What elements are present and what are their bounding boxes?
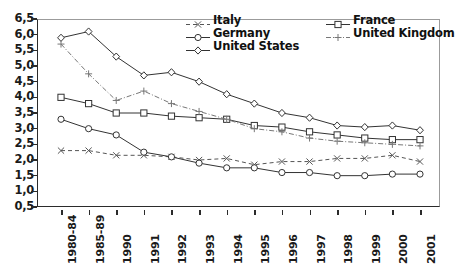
data-point-marker <box>334 138 341 145</box>
data-point-marker <box>224 165 230 171</box>
legend-column: FranceUnited Kingdom <box>325 14 455 40</box>
x-axis-tick-mark <box>89 210 91 215</box>
series-united-kingdom <box>58 41 424 150</box>
data-point-marker <box>196 160 202 166</box>
data-point-marker <box>306 135 313 142</box>
x-axis-tick-mark <box>254 210 256 215</box>
data-point-marker <box>334 132 340 138</box>
data-point-marker <box>140 72 147 79</box>
legend-swatch-icon <box>185 15 211 26</box>
y-axis-tick-label: 2,0 <box>2 154 34 166</box>
legend-item-united-kingdom: United Kingdom <box>325 27 455 40</box>
data-point-marker <box>168 100 175 107</box>
legend-item-italy: Italy <box>185 14 299 27</box>
data-point-marker <box>389 171 395 177</box>
data-point-marker <box>195 47 202 54</box>
data-point-marker <box>86 101 92 107</box>
data-point-marker <box>251 165 257 171</box>
x-axis: 1980-841985-8919901991199219931994199519… <box>37 210 440 277</box>
legend-label: United Kingdom <box>353 28 455 39</box>
x-axis-tick-label: 1997 <box>315 234 328 264</box>
chart-legend: ItalyGermanyUnited StatesFranceUnited Ki… <box>185 14 441 54</box>
x-axis-tick-mark <box>144 210 146 215</box>
data-point-marker <box>141 149 147 155</box>
data-point-marker <box>306 129 312 135</box>
data-point-marker <box>58 94 64 100</box>
data-point-marker <box>196 115 202 121</box>
data-point-marker <box>113 132 119 138</box>
series-italy <box>58 148 423 168</box>
x-axis-tick-label: 1980-84 <box>66 215 79 264</box>
legend-label: Italy <box>213 15 241 26</box>
y-axis-tick-label: 4,5 <box>2 76 34 88</box>
legend-swatch-icon <box>185 28 211 39</box>
data-point-marker <box>86 126 92 132</box>
x-axis-tick-label: 1990 <box>121 234 134 264</box>
data-point-marker <box>417 137 423 143</box>
y-axis-tick-label: 6,0 <box>2 29 34 41</box>
data-point-marker <box>196 108 203 115</box>
y-axis-tick-label: 6,5 <box>2 13 34 25</box>
x-axis-tick-mark <box>365 210 367 215</box>
data-point-marker <box>195 34 201 40</box>
y-axis-tick-label: 5,0 <box>2 60 34 72</box>
x-axis-tick-label: 2001 <box>425 234 438 264</box>
x-axis-tick-mark <box>61 210 63 215</box>
data-point-marker <box>361 124 368 131</box>
data-point-marker <box>223 91 230 98</box>
y-axis-tick-label: 5,5 <box>2 44 34 56</box>
data-point-marker <box>168 154 174 160</box>
x-axis-tick-mark <box>420 210 422 215</box>
x-axis-tick-label: 1999 <box>370 234 383 264</box>
x-axis-tick-label: 1996 <box>287 234 300 264</box>
data-point-marker <box>417 171 423 177</box>
y-axis-tick-label: 3,5 <box>2 107 34 119</box>
x-axis-tick-label: 1994 <box>232 234 245 264</box>
legend-swatch-icon <box>325 28 351 39</box>
data-point-marker <box>279 169 285 175</box>
x-axis-tick-label: 1995 <box>259 234 272 264</box>
data-point-marker <box>335 21 341 27</box>
legend-label: Germany <box>213 28 270 39</box>
y-axis-tick-label: 1,5 <box>2 170 34 182</box>
data-point-marker <box>113 97 120 104</box>
x-axis-tick-mark <box>227 210 229 215</box>
y-axis-tick-label: 0,5 <box>2 201 34 213</box>
x-axis-tick-label: 1992 <box>176 234 189 264</box>
y-axis-tick-label: 4,0 <box>2 91 34 103</box>
x-axis-tick-mark <box>199 210 201 215</box>
x-axis-tick-mark <box>282 210 284 215</box>
x-axis-tick-mark <box>171 210 173 215</box>
data-point-marker <box>362 173 368 179</box>
x-axis-tick-mark <box>116 210 118 215</box>
legend-column: ItalyGermanyUnited States <box>185 14 299 53</box>
data-point-marker <box>334 122 341 129</box>
series-germany <box>58 116 423 179</box>
legend-item-united-states: United States <box>185 40 299 53</box>
data-point-marker <box>58 34 65 41</box>
data-point-marker <box>417 142 424 149</box>
data-point-marker <box>196 78 203 85</box>
data-point-marker <box>168 113 174 119</box>
data-point-marker <box>141 110 147 116</box>
legend-swatch-icon <box>185 41 211 52</box>
data-point-marker <box>58 116 64 122</box>
data-point-marker <box>251 100 258 107</box>
legend-swatch-icon <box>325 15 351 26</box>
legend-item-france: France <box>325 14 455 27</box>
x-axis-tick-label: 2000 <box>397 234 410 264</box>
y-axis-tick-label: 3,0 <box>2 123 34 135</box>
data-point-marker <box>306 169 312 175</box>
x-axis-tick-label: 1985-89 <box>94 215 107 264</box>
legend-label: France <box>353 15 395 26</box>
data-point-marker <box>279 109 286 116</box>
legend-label: United States <box>213 41 299 52</box>
x-axis-tick-label: 1991 <box>149 234 162 264</box>
data-point-marker <box>335 34 342 41</box>
y-axis: 6,56,05,55,04,54,03,53,02,52,01,51,00,5 <box>0 0 34 277</box>
data-point-marker <box>168 69 175 76</box>
x-axis-tick-mark <box>337 210 339 215</box>
x-axis-tick-label: 1998 <box>342 234 355 264</box>
data-point-marker <box>334 173 340 179</box>
